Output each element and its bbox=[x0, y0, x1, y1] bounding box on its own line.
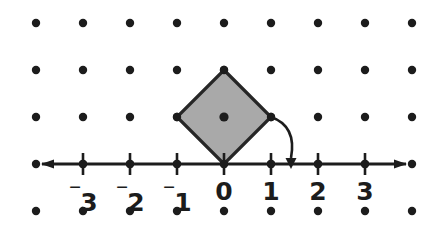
tick-label-0: 0 bbox=[215, 179, 232, 204]
tick-label-digit: 1 bbox=[262, 177, 279, 206]
grid-dot-r4-c5 bbox=[267, 207, 275, 215]
figure-root: ⁻3⁻2⁻10123 bbox=[0, 0, 439, 228]
tick-dot-2 bbox=[314, 160, 322, 168]
grid-dot-r1-c0 bbox=[32, 66, 40, 74]
tick-label-digit: 3 bbox=[80, 188, 97, 217]
grid-dot-r4-c7 bbox=[361, 207, 369, 215]
grid-dot-r0-c0 bbox=[32, 19, 40, 27]
left-arrowhead-icon bbox=[41, 160, 54, 169]
tick-label-2: 2 bbox=[309, 179, 326, 204]
grid-dot-r2-c6 bbox=[314, 113, 322, 121]
vertex-dot-left bbox=[173, 113, 181, 121]
rotation-arc-path bbox=[271, 117, 292, 158]
grid-dot-r0-c8 bbox=[408, 19, 416, 27]
grid-dot-r0-c2 bbox=[126, 19, 134, 27]
tick-dot-1 bbox=[267, 160, 275, 168]
tick-label-digit: 2 bbox=[127, 188, 144, 217]
tick-label-digit: 2 bbox=[309, 177, 326, 206]
grid-dot-r1-c5 bbox=[267, 66, 275, 74]
grid-dot-r3-c0 bbox=[32, 160, 40, 168]
grid-dot-r0-c1 bbox=[79, 19, 87, 27]
grid-dot-r0-c6 bbox=[314, 19, 322, 27]
grid-dot-r4-c0 bbox=[32, 207, 40, 215]
vertex-dot-top bbox=[220, 66, 228, 74]
grid-dot-r1-c8 bbox=[408, 66, 416, 74]
tick-dot-0 bbox=[220, 160, 228, 168]
grid-dot-r1-c2 bbox=[126, 66, 134, 74]
grid-dot-r4-c8 bbox=[408, 207, 416, 215]
tick-label--1: ⁻1 bbox=[162, 179, 191, 215]
grid-dot-r2-c2 bbox=[126, 113, 134, 121]
grid-dot-r2-c0 bbox=[32, 113, 40, 121]
tick-label--2: ⁻2 bbox=[115, 179, 144, 215]
grid-dot-r4-c4 bbox=[220, 207, 228, 215]
grid-dot-r2-c8 bbox=[408, 113, 416, 121]
grid-dot-r4-c6 bbox=[314, 207, 322, 215]
tick-dot--2 bbox=[126, 160, 134, 168]
tick-label--3: ⁻3 bbox=[68, 179, 97, 215]
grid-dot-r0-c3 bbox=[173, 19, 181, 27]
tick-label-digit: 3 bbox=[356, 177, 373, 206]
horizontal-number-line bbox=[41, 153, 407, 175]
grid-dot-r0-c4 bbox=[220, 19, 228, 27]
tick-dot--1 bbox=[173, 160, 181, 168]
right-arrowhead-icon bbox=[394, 160, 407, 169]
grid-dot-r3-c8 bbox=[408, 160, 416, 168]
grid-dot-r1-c1 bbox=[79, 66, 87, 74]
tick-dot--3 bbox=[79, 160, 87, 168]
grid-dot-r2-c1 bbox=[79, 113, 87, 121]
grid-dot-r2-c7 bbox=[361, 113, 369, 121]
tick-label-3: 3 bbox=[356, 179, 373, 204]
rotation-arc-arrow bbox=[271, 117, 297, 169]
tick-label-digit: 1 bbox=[174, 188, 191, 217]
grid-dot-r1-c6 bbox=[314, 66, 322, 74]
shape-center-dot bbox=[219, 112, 228, 121]
tick-label-1: 1 bbox=[262, 179, 279, 204]
grid-dot-r0-c7 bbox=[361, 19, 369, 27]
grid-dot-r0-c5 bbox=[267, 19, 275, 27]
grid-dot-r1-c7 bbox=[361, 66, 369, 74]
tick-dot-3 bbox=[361, 160, 369, 168]
tick-label-digit: 0 bbox=[215, 177, 232, 206]
grid-dot-r1-c3 bbox=[173, 66, 181, 74]
